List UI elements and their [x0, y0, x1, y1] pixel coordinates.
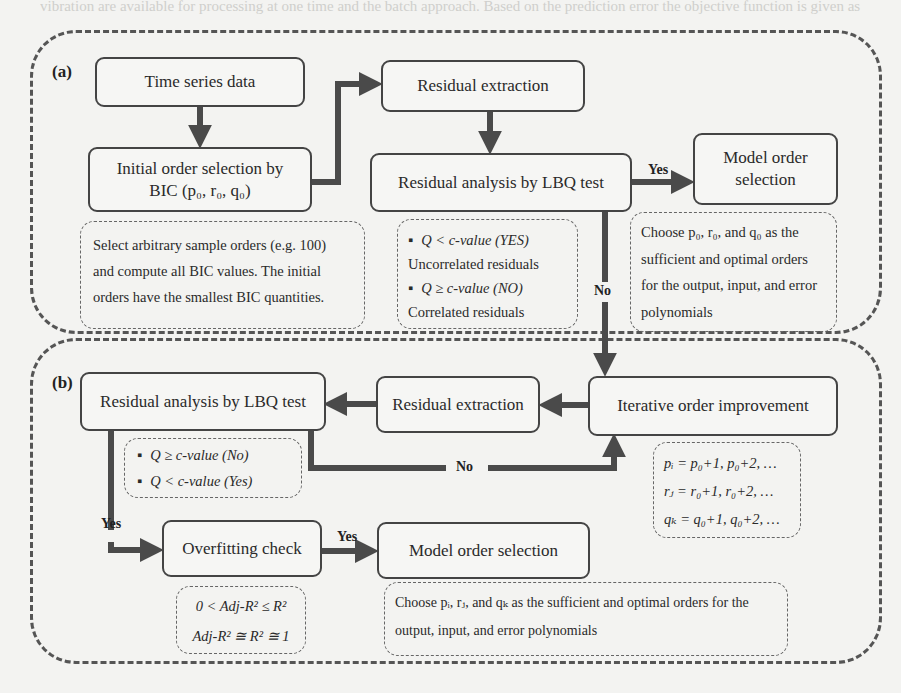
initial-order-note-line: orders have the smallest BIC quantities.: [93, 284, 352, 310]
initial-order-note-line: and compute all BIC values. The initial: [93, 258, 352, 284]
time-series-data-box: Time series data: [95, 57, 305, 107]
model-order-note-line: for the output, input, and error: [641, 272, 826, 299]
residual-analysis-label: Residual analysis by LBQ test: [398, 172, 604, 194]
initial-order-line1: Initial order selection by: [117, 158, 284, 180]
lbq-criteria-note-b: Q ≥ c-value (No) Q < c-value (Yes): [124, 438, 302, 498]
iterative-order-note: pᵢ = p₀+1, p₀+2, … rⱼ = r₀+1, r₀+2, … qₖ…: [653, 442, 801, 538]
panel-b-label: (b): [52, 373, 73, 393]
model-order-label: Model order selection: [409, 540, 558, 562]
panel-a-label: (a): [52, 62, 72, 82]
lbq-criterion-no: Q ≥ c-value (NO): [408, 276, 567, 300]
r-order-formula: rⱼ = r₀+1, r₀+2, …: [664, 477, 790, 505]
residual-extraction-box-a: Residual extraction: [381, 60, 585, 112]
yes-label-b-right: Yes: [337, 529, 357, 545]
lbq-criteria-note-a: Q < c-value (YES) Uncorrelated residuals…: [397, 219, 578, 329]
overfitting-check-box: Overfitting check: [162, 520, 322, 577]
model-order-line1: Model order: [723, 147, 808, 169]
lbq-criterion-yes: Q < c-value (Yes): [137, 468, 289, 494]
residual-analysis-box-b: Residual analysis by LBQ test: [80, 372, 326, 431]
model-order-note-line: output, input, and error polynomials: [395, 617, 777, 645]
model-order-note-line: sufficient and optimal orders: [641, 246, 826, 273]
initial-order-note-line: Select arbitrary sample orders (e.g. 100…: [93, 232, 352, 258]
q-order-formula: qₖ = q₀+1, q₀+2, …: [664, 505, 790, 533]
model-order-selection-box-b: Model order selection: [377, 522, 590, 579]
lbq-criterion-yes-desc: Uncorrelated residuals: [408, 252, 567, 276]
iterative-order-label: Iterative order improvement: [617, 395, 809, 417]
residual-extraction-label: Residual extraction: [392, 394, 524, 416]
initial-order-line2: BIC (p₀, r₀, q₀): [149, 180, 250, 202]
residual-extraction-box-b: Residual extraction: [376, 376, 540, 433]
model-order-line2: selection: [735, 169, 795, 191]
no-label-b: No: [456, 459, 473, 475]
overfitting-check-label: Overfitting check: [182, 538, 301, 560]
initial-order-note: Select arbitrary sample orders (e.g. 100…: [80, 221, 365, 329]
lbq-criterion-no-desc: Correlated residuals: [408, 300, 567, 324]
model-order-note-line: Choose p₀, r₀, and q₀ as the: [641, 219, 826, 246]
overfitting-criteria-note: 0 < Adj-R² ≤ R² Adj-R² ≅ R² ≅ 1: [176, 586, 306, 654]
time-series-data-label: Time series data: [145, 71, 256, 93]
residual-analysis-label: Residual analysis by LBQ test: [100, 391, 306, 413]
model-order-note-b: Choose pᵢ, rⱼ, and qₖ as the sufficient …: [384, 582, 788, 656]
adj-r2-approx: Adj-R² ≅ R² ≅ 1: [185, 621, 297, 651]
lbq-criterion-no: Q ≥ c-value (No): [137, 442, 289, 468]
model-order-note-line: Choose pᵢ, rⱼ, and qₖ as the sufficient …: [395, 589, 777, 617]
model-order-note-a: Choose p₀, r₀, and q₀ as the sufficient …: [630, 212, 837, 332]
initial-order-selection-box: Initial order selection by BIC (p₀, r₀, …: [88, 147, 312, 212]
no-label-a: No: [594, 283, 611, 299]
iterative-order-improvement-box: Iterative order improvement: [588, 376, 838, 436]
model-order-note-line: polynomials: [641, 299, 826, 326]
yes-label-a: Yes: [648, 162, 668, 178]
p-order-formula: pᵢ = p₀+1, p₀+2, …: [664, 449, 790, 477]
yes-label-b-down: Yes: [101, 516, 121, 532]
residual-analysis-box-a: Residual analysis by LBQ test: [370, 153, 632, 212]
lbq-criterion-yes: Q < c-value (YES): [408, 228, 567, 252]
residual-extraction-label: Residual extraction: [417, 75, 549, 97]
model-order-selection-box-a: Model order selection: [693, 133, 838, 205]
adj-r2-bound: 0 < Adj-R² ≤ R²: [185, 591, 297, 621]
